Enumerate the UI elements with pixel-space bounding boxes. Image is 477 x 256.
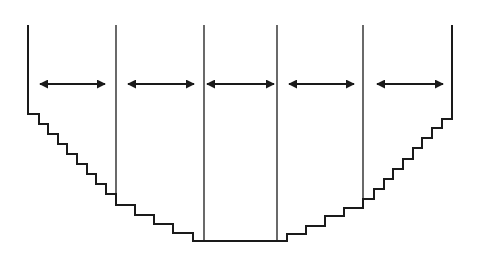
stepped-outline (28, 25, 452, 241)
diagram-svg (0, 0, 477, 256)
section-dividers (116, 25, 363, 241)
stepped-bowl-diagram (0, 0, 477, 256)
